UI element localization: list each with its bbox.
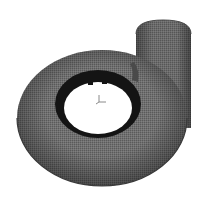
mesh-figure	[0, 0, 211, 203]
spiral-casing-render	[0, 0, 211, 203]
central-opening	[64, 82, 132, 134]
